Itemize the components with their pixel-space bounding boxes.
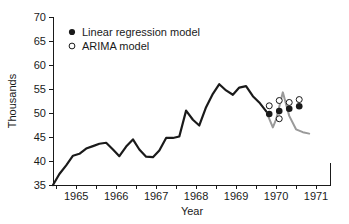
linear-regression-point — [296, 103, 303, 110]
legend-label-arima: ARIMA model — [82, 40, 149, 52]
linear-regression-point — [266, 111, 273, 118]
y-tick-label-35: 35 — [34, 179, 46, 191]
x-axis-title: Year — [181, 205, 204, 217]
y-tick-label-70: 70 — [34, 11, 46, 23]
arima-point — [266, 103, 272, 109]
y-axis-title: Thousands — [6, 73, 18, 128]
arima-point — [276, 116, 282, 122]
x-tick-label-1965: 1965 — [64, 190, 88, 202]
legend-label-linear-regression: Linear regression model — [82, 26, 200, 38]
y-tick-label-60: 60 — [34, 59, 46, 71]
legend-filled-circle-icon — [69, 29, 75, 35]
x-tick-label-1971: 1971 — [304, 190, 328, 202]
x-tick-label-1966: 1966 — [104, 190, 128, 202]
y-tick-label-55: 55 — [34, 83, 46, 95]
forecast-line-chart: 3540455055606570 19651966196719681969197… — [0, 0, 349, 224]
chart-container: 3540455055606570 19651966196719681969197… — [0, 0, 349, 224]
arima-point — [286, 99, 292, 105]
x-tick-label-1970: 1970 — [264, 190, 288, 202]
y-tick-label-65: 65 — [34, 35, 46, 47]
linear-regression-point — [276, 108, 283, 115]
y-tick-label-40: 40 — [34, 155, 46, 167]
arima-point — [276, 98, 282, 104]
arima-point — [296, 97, 302, 103]
y-tick-label-45: 45 — [34, 131, 46, 143]
x-tick-label-1968: 1968 — [184, 190, 208, 202]
x-tick-label-1969: 1969 — [224, 190, 248, 202]
linear-regression-point — [286, 105, 293, 112]
y-tick-label-50: 50 — [34, 107, 46, 119]
legend-open-circle-icon — [69, 43, 75, 49]
x-tick-label-1967: 1967 — [144, 190, 168, 202]
